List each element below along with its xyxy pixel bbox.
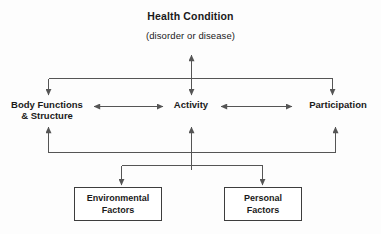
page-subtitle: (disorder or disease) (0, 30, 381, 41)
node-body-functions-line1: Body Functions (11, 99, 83, 110)
icf-diagram: Health Condition (disorder or disease) B… (0, 0, 381, 234)
page-title: Health Condition (0, 10, 381, 22)
node-personal-factors-line1: Personal (244, 192, 282, 204)
node-participation-label: Participation (309, 99, 367, 110)
node-activity: Activity (166, 99, 216, 110)
node-environmental-factors-line1: Environmental (87, 192, 150, 204)
node-participation: Participation (298, 99, 378, 110)
node-environmental-factors: Environmental Factors (74, 187, 162, 221)
node-personal-factors-line2: Factors (247, 204, 280, 216)
node-personal-factors: Personal Factors (224, 187, 302, 221)
node-environmental-factors-line2: Factors (102, 204, 135, 216)
node-body-functions: Body Functions & Structure (4, 99, 90, 121)
node-activity-label: Activity (174, 99, 208, 110)
node-body-functions-line2: & Structure (4, 110, 90, 121)
